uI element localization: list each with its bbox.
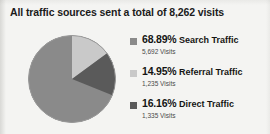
legend-item-search-visits: 5,692 Visits: [142, 47, 270, 57]
search-traffic-swatch: [130, 38, 137, 45]
legend: 68.89% Search Traffic 5,692 Visits 14.95…: [130, 33, 270, 129]
legend-item-search-label: Search Traffic: [179, 35, 239, 45]
legend-item-search-percent: 68.89%: [142, 33, 176, 45]
pie-chart-svg: [28, 35, 116, 123]
legend-item-referral[interactable]: 14.95% Referral Traffic 1,235 Visits: [130, 65, 270, 97]
page-title: All traffic sources sent a total of 8,26…: [10, 6, 260, 18]
pie-chart: [28, 35, 116, 123]
legend-item-direct-visits: 1,335 Visits: [142, 111, 270, 121]
legend-item-search[interactable]: 68.89% Search Traffic 5,692 Visits: [130, 33, 270, 65]
legend-item-referral-main: 14.95% Referral Traffic: [142, 65, 270, 78]
legend-item-direct-label: Direct Traffic: [179, 99, 234, 109]
legend-item-referral-percent: 14.95%: [142, 65, 176, 77]
legend-item-direct-percent: 16.16%: [142, 97, 176, 109]
legend-item-referral-label: Referral Traffic: [179, 67, 243, 77]
legend-item-direct[interactable]: 16.16% Direct Traffic 1,335 Visits: [130, 97, 270, 129]
legend-item-direct-main: 16.16% Direct Traffic: [142, 97, 270, 110]
legend-item-search-main: 68.89% Search Traffic: [142, 33, 270, 46]
legend-item-referral-visits: 1,235 Visits: [142, 79, 270, 89]
referral-traffic-swatch: [130, 70, 137, 77]
direct-traffic-swatch: [130, 102, 137, 109]
traffic-sources-pie-widget: All traffic sources sent a total of 8,26…: [0, 0, 270, 134]
pie-chart-area: [22, 31, 122, 129]
